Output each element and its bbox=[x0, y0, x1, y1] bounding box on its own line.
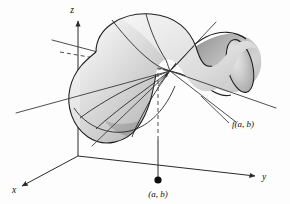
figure-container: z x y f(a, b) (a, b) bbox=[0, 0, 290, 204]
f-value-label: f(a, b) bbox=[232, 119, 254, 129]
y-axis bbox=[78, 156, 255, 176]
surface-tangent-plane-svg: z x y f(a, b) (a, b) bbox=[0, 0, 290, 204]
x-axis bbox=[22, 156, 78, 186]
y-axis-label: y bbox=[261, 172, 267, 182]
surface-z-equals-f bbox=[69, 14, 262, 150]
f-label-leader bbox=[201, 96, 229, 123]
domain-point-dot bbox=[154, 176, 161, 183]
z-axis-label: z bbox=[69, 5, 74, 15]
x-axis-label: x bbox=[11, 185, 17, 195]
domain-point-label: (a, b) bbox=[148, 189, 168, 199]
vertical-drop bbox=[154, 73, 168, 184]
